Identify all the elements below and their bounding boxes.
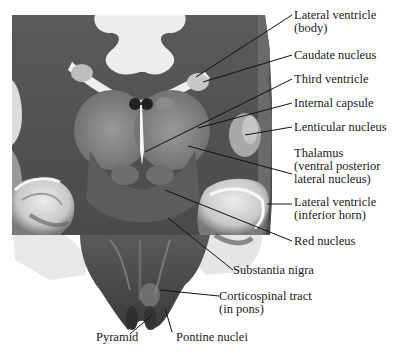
label-lateral-ventricle-inferior-horn: Lateral ventricle (inferior horn)	[294, 196, 376, 222]
label-line: (in pons)	[219, 303, 312, 316]
label-line: Internal capsule	[294, 97, 373, 110]
label-third-ventricle: Third ventricle	[294, 73, 369, 86]
label-line: (inferior horn)	[294, 209, 376, 222]
label-line: Caudate nucleus	[294, 49, 376, 62]
label-line: (body)	[294, 22, 376, 35]
label-lateral-ventricle-body: Lateral ventricle (body)	[294, 9, 376, 35]
label-line: Third ventricle	[294, 73, 369, 86]
brain-section-figure: Lateral ventricle (body) Caudate nucleus…	[0, 0, 405, 357]
label-internal-capsule: Internal capsule	[294, 97, 373, 110]
label-line: Pyramid	[96, 331, 138, 344]
label-line: Substantia nigra	[233, 264, 314, 277]
label-line: Lenticular nucleus	[294, 121, 387, 134]
label-pontine-nuclei: Pontine nuclei	[176, 331, 248, 344]
label-line: Pontine nuclei	[176, 331, 248, 344]
label-pyramid: Pyramid	[96, 331, 138, 344]
label-thalamus: Thalamus (ventral posterior lateral nucl…	[294, 147, 380, 186]
label-line: Red nucleus	[294, 235, 355, 248]
label-line: lateral nucleus)	[294, 173, 380, 186]
label-substantia-nigra: Substantia nigra	[233, 264, 314, 277]
label-corticospinal-tract: Corticospinal tract (in pons)	[219, 290, 312, 316]
label-lenticular-nucleus: Lenticular nucleus	[294, 121, 387, 134]
label-red-nucleus: Red nucleus	[294, 235, 355, 248]
label-caudate-nucleus: Caudate nucleus	[294, 49, 376, 62]
